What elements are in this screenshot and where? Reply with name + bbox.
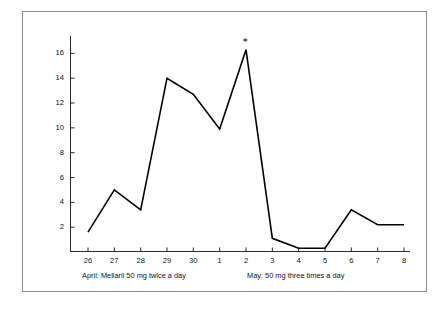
y-tick-label: 16 bbox=[42, 49, 64, 57]
plot-area: * bbox=[70, 36, 410, 252]
y-tick-label: 2 bbox=[42, 223, 64, 231]
y-tick-label: 6 bbox=[42, 174, 64, 182]
x-tick-label: 8 bbox=[389, 256, 419, 265]
y-tick-label: 14 bbox=[42, 74, 64, 82]
y-axis-ticks bbox=[71, 53, 75, 227]
line-chart-svg bbox=[70, 36, 410, 252]
x-axis-ticks bbox=[88, 248, 404, 252]
y-tick-label: 12 bbox=[42, 99, 64, 107]
caption-april: April: Mellaril 50 mg twice a day bbox=[82, 271, 186, 281]
y-tick-label: 10 bbox=[42, 124, 64, 132]
y-tick-label: 8 bbox=[42, 149, 64, 157]
x-axis-tick-labels: 262728293012345678 bbox=[70, 256, 410, 266]
caption-may: May: 50 mg three times a day bbox=[247, 271, 344, 281]
phase-captions: April: Mellaril 50 mg twice a day May: 5… bbox=[22, 271, 427, 283]
y-tick-label: 4 bbox=[42, 198, 64, 206]
data-line bbox=[88, 50, 404, 249]
figure-canvas: Number of tantrums 246810121416 * 262728… bbox=[0, 0, 441, 313]
asterisk-annotation: * bbox=[243, 37, 248, 47]
